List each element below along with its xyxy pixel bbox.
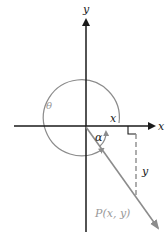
x-segment-label: x [110,112,117,125]
y-axis-label: y [82,3,90,16]
point-label: P(x, y) [94,207,130,220]
x-axis-label: x [158,120,165,133]
trig-angle-diagram: y x θ x α y P(x, y) [0,0,168,240]
right-angle-marker [128,126,136,134]
y-segment-label: y [141,165,149,178]
theta-label: θ [46,100,52,111]
theta-arc [43,80,119,156]
alpha-label: α [95,131,103,144]
